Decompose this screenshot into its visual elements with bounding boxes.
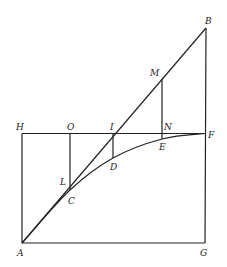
label-point-D: D [109, 162, 117, 172]
label-point-O: O [67, 122, 75, 132]
label-point-F: F [207, 130, 215, 140]
label-point-I: I [109, 122, 114, 132]
segment-GB [205, 28, 206, 243]
label-point-C: C [68, 196, 75, 206]
label-point-M: M [149, 68, 160, 78]
label-point-H: H [15, 122, 24, 132]
label-point-G: G [200, 248, 207, 258]
label-point-A: A [16, 248, 24, 258]
label-point-E: E [158, 142, 166, 152]
label-point-L: L [59, 177, 66, 187]
label-point-N: N [163, 122, 173, 132]
geometric-diagram: AGHFBOINMEDLC [0, 0, 227, 267]
label-point-B: B [204, 16, 212, 26]
